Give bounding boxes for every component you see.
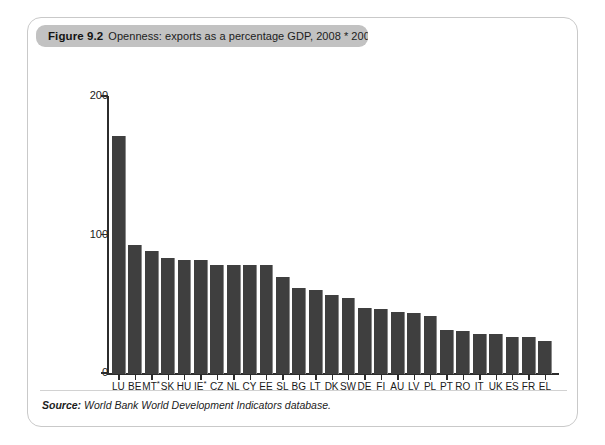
bar bbox=[194, 260, 208, 374]
x-axis-tick-mark bbox=[118, 374, 119, 380]
x-axis-tick-mark bbox=[397, 374, 398, 380]
x-axis-tick-mark bbox=[496, 374, 497, 380]
x-axis-tick-mark bbox=[381, 374, 382, 380]
x-axis-tick-mark bbox=[446, 374, 447, 380]
bar bbox=[391, 312, 405, 374]
bar bbox=[374, 309, 388, 374]
figure-title: Openness: exports as a percentage GDP, 2… bbox=[108, 30, 368, 42]
bar bbox=[227, 265, 241, 374]
x-axis-tick-mark bbox=[332, 374, 333, 380]
x-axis-tick-mark bbox=[282, 374, 283, 380]
bar bbox=[260, 265, 274, 374]
bar bbox=[325, 295, 339, 374]
bar bbox=[292, 288, 306, 374]
x-axis-tick-mark bbox=[168, 374, 169, 380]
source-note: Source:World Bank World Development Indi… bbox=[42, 399, 331, 411]
bar bbox=[210, 265, 224, 374]
bar bbox=[456, 331, 470, 374]
bar bbox=[178, 260, 192, 374]
x-axis-tick-mark bbox=[364, 374, 365, 380]
bar bbox=[538, 341, 552, 374]
bar bbox=[112, 136, 126, 374]
bar bbox=[145, 251, 159, 374]
source-text: World Bank World Development Indicators … bbox=[84, 399, 331, 411]
bar bbox=[407, 313, 421, 374]
bar bbox=[128, 245, 142, 374]
bar bbox=[358, 308, 372, 374]
chart-plot-area: 0100200 LUBEMT*SKHUIE*CZNLCYEESLBGLTDKSW… bbox=[56, 60, 561, 400]
x-axis-tick-mark bbox=[430, 374, 431, 380]
x-axis-tick-mark bbox=[151, 374, 152, 380]
x-axis-tick-mark bbox=[463, 374, 464, 380]
bar bbox=[489, 334, 503, 374]
x-axis-tick-mark bbox=[250, 374, 251, 380]
bar bbox=[522, 337, 536, 374]
bar bbox=[309, 290, 323, 374]
x-axis-tick-mark bbox=[512, 374, 513, 380]
source-divider bbox=[40, 390, 567, 391]
x-axis-tick-mark bbox=[184, 374, 185, 380]
bar bbox=[473, 334, 487, 374]
bar bbox=[424, 316, 438, 374]
x-axis-tick-mark bbox=[348, 374, 349, 380]
x-axis-tick-mark bbox=[479, 374, 480, 380]
bar bbox=[243, 265, 257, 374]
x-axis-tick-mark bbox=[266, 374, 267, 380]
x-axis-tick-mark bbox=[315, 374, 316, 380]
bar bbox=[506, 337, 520, 374]
bar bbox=[161, 258, 175, 374]
x-axis-tick-mark bbox=[414, 374, 415, 380]
figure-number: Figure 9.2 bbox=[48, 30, 103, 42]
figure-header: Figure 9.2 Openness: exports as a percen… bbox=[36, 25, 368, 47]
bar bbox=[440, 330, 454, 374]
bar bbox=[342, 298, 356, 374]
x-axis-tick-mark bbox=[217, 374, 218, 380]
x-axis-tick-mark bbox=[528, 374, 529, 380]
x-axis-ticks bbox=[107, 374, 559, 381]
bar bbox=[276, 277, 290, 374]
bar-series bbox=[107, 60, 559, 374]
figure-card: Figure 9.2 Openness: exports as a percen… bbox=[27, 17, 578, 427]
x-axis-tick-mark bbox=[299, 374, 300, 380]
x-axis-tick-mark bbox=[200, 374, 201, 380]
source-label: Source: bbox=[42, 399, 81, 411]
x-axis-tick-mark bbox=[135, 374, 136, 380]
x-axis-tick-mark bbox=[545, 374, 546, 380]
x-axis-tick-mark bbox=[233, 374, 234, 380]
